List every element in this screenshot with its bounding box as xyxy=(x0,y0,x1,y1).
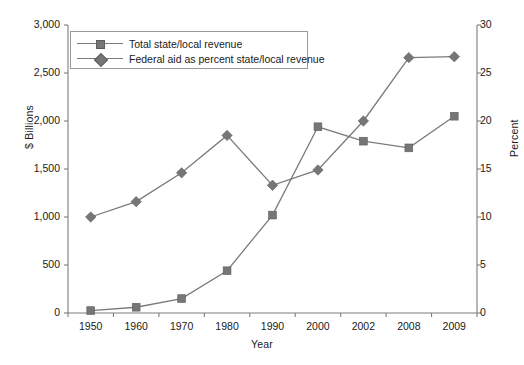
x-axis-tick-label: 1990 xyxy=(250,320,296,332)
y-axis-right-title: Percent xyxy=(508,119,520,157)
x-axis-tick-label: 1970 xyxy=(159,320,205,332)
legend-marker-diamond-icon xyxy=(77,52,123,66)
x-axis-title: Year xyxy=(0,338,524,350)
chart-legend: Total state/local revenue Federal aid as… xyxy=(70,31,308,69)
y-axis-left-title: $ Billions xyxy=(23,105,35,149)
chart-figure: 05001,0001,5002,0002,5003,000 0510152025… xyxy=(0,0,524,365)
x-axis-tick-label: 1950 xyxy=(68,320,114,332)
x-axis-tick-label: 1960 xyxy=(113,320,159,332)
legend-item-federal-aid: Federal aid as percent state/local reven… xyxy=(77,51,301,66)
x-axis-tick-label: 1980 xyxy=(204,320,250,332)
x-axis-tick-label: 2000 xyxy=(295,320,341,332)
legend-label-total-revenue: Total state/local revenue xyxy=(129,38,242,50)
legend-label-federal-aid: Federal aid as percent state/local reven… xyxy=(129,53,325,65)
x-axis-tick-label: 2002 xyxy=(340,320,386,332)
x-axis-tick-label: 2008 xyxy=(386,320,432,332)
x-axis-tick-label: 2009 xyxy=(431,320,477,332)
legend-marker-square-icon xyxy=(77,37,123,51)
legend-item-total-revenue: Total state/local revenue xyxy=(77,36,301,51)
